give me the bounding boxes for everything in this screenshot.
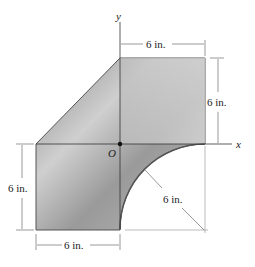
left-height-label: 6 in.	[8, 182, 28, 194]
origin-label: O	[108, 147, 116, 159]
bottom-width-label: 6 in.	[64, 239, 84, 251]
right-height-label: 6 in.	[207, 96, 227, 108]
composite-area-diagram: y x O 6 in. 6 in. 6 in. 6 in. 6 in.	[0, 0, 255, 267]
origin-point	[118, 142, 122, 146]
arc-radius-label: 6 in.	[163, 193, 183, 205]
x-axis-label: x	[235, 138, 241, 150]
top-square	[120, 58, 205, 144]
top-width-label: 6 in.	[146, 38, 166, 50]
y-axis-label: y	[115, 10, 121, 22]
